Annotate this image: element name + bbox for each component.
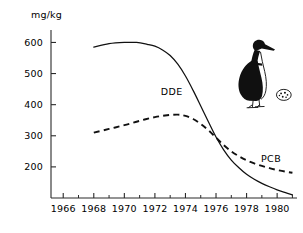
x-axis-tick-label: 1972 bbox=[142, 203, 167, 214]
x-axis-tick-label: 1970 bbox=[112, 203, 137, 214]
egg-speckle bbox=[284, 92, 286, 94]
x-axis-tick-label: 1978 bbox=[234, 203, 259, 214]
series-line-pcb bbox=[94, 115, 293, 173]
y-axis-tick-label: 600 bbox=[24, 37, 43, 48]
egg-speckle bbox=[282, 96, 284, 98]
bird-icon bbox=[238, 40, 275, 108]
chart-series bbox=[94, 42, 293, 195]
egg-icon bbox=[276, 89, 291, 100]
pollutant-trend-chart: 200300400500600 196619681970197219741976… bbox=[0, 0, 303, 233]
x-axis-tick-label: 1980 bbox=[265, 203, 290, 214]
y-axis-tick-label: 500 bbox=[24, 68, 43, 79]
egg-speckle bbox=[287, 94, 289, 96]
y-axis-tick-label: 400 bbox=[24, 99, 43, 110]
y-axis-tick-labels: 200300400500600 bbox=[24, 37, 43, 172]
bird-eye-icon bbox=[259, 44, 261, 46]
chart-figure: 200300400500600 196619681970197219741976… bbox=[0, 0, 303, 233]
bird-head-and-bill bbox=[253, 40, 275, 51]
x-axis-tick-label: 1974 bbox=[173, 203, 198, 214]
y-axis-tick-label: 300 bbox=[24, 130, 43, 141]
y-axis-tick-label: 200 bbox=[24, 161, 43, 172]
x-axis-tick-labels: 19661968197019721974197619781980 bbox=[51, 203, 290, 214]
series-label-dde: DDE bbox=[161, 86, 183, 97]
bird-leg-left bbox=[252, 101, 253, 108]
guillemot-with-egg-illustration bbox=[238, 40, 291, 108]
x-axis-tick-label: 1968 bbox=[81, 203, 106, 214]
y-axis-unit-label: mg/kg bbox=[31, 9, 62, 20]
egg-speckle bbox=[279, 95, 280, 96]
x-axis-tick-label: 1966 bbox=[51, 203, 76, 214]
x-axis-tick-label: 1976 bbox=[204, 203, 229, 214]
bird-body bbox=[238, 60, 262, 101]
series-label-pcb: PCB bbox=[261, 153, 281, 164]
series-line-dde bbox=[94, 42, 293, 195]
x-axis-ticks bbox=[63, 193, 292, 198]
y-axis-ticks bbox=[51, 42, 56, 166]
egg-speckle bbox=[280, 92, 282, 94]
egg-shell bbox=[276, 89, 291, 100]
egg-speckle bbox=[285, 96, 287, 98]
